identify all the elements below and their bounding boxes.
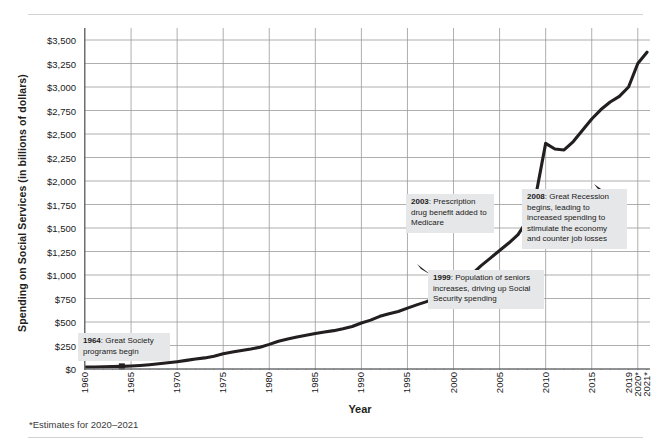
annotation-1999-year: 1999: <box>433 273 455 282</box>
y-axis-tick-label: $2,250 <box>16 152 76 163</box>
y-axis-tick-label: $2,000 <box>16 176 76 187</box>
y-axis-tick-label: $1,250 <box>16 246 76 257</box>
x-axis-tick-label: 1960 <box>80 372 90 393</box>
annotation-1964-year: 1964: <box>83 336 105 345</box>
y-axis-tick-label: $1,750 <box>16 199 76 210</box>
x-axis-tick-label: 2005 <box>495 372 505 393</box>
y-axis-tick-label: $1,000 <box>16 270 76 281</box>
y-axis-tick-label: $3,000 <box>16 82 76 93</box>
y-axis-tick-labels: $3,500$3,250$3,000$2,750$2,500$2,250$2,0… <box>14 28 76 370</box>
annotation-1999: 1999: Population of seniors increases, d… <box>428 270 544 309</box>
y-axis-tick-label: $500 <box>16 317 76 328</box>
y-axis-tick-label: $3,500 <box>16 35 76 46</box>
annotation-2003: 2003: Prescription drug benefit added to… <box>406 194 494 233</box>
x-axis-tick-label: 1975 <box>218 372 228 393</box>
x-axis-tick-label: 2021* <box>642 372 652 397</box>
y-axis-tick-label: $0 <box>16 364 76 375</box>
top-divider <box>28 14 643 15</box>
y-axis-tick-label: $1,500 <box>16 223 76 234</box>
y-axis-tick-label: $3,250 <box>16 58 76 69</box>
annotation-2008-year: 2008: <box>527 192 549 201</box>
annotation-2008: 2008: Great Recession begins, leading to… <box>522 189 627 249</box>
x-axis-tick-label: 1985 <box>310 372 320 393</box>
annotation-2003-year: 2003: <box>411 197 433 206</box>
chart-footnote: *Estimates for 2020–2021 <box>29 419 138 430</box>
x-axis-title: Year <box>90 403 630 415</box>
x-axis-tick-label: 1990 <box>356 372 366 393</box>
x-axis-tick-label: 1965 <box>126 372 136 393</box>
x-axis-tick-label: 1970 <box>172 372 182 393</box>
x-axis-tick-label: 2015 <box>587 372 597 393</box>
y-axis-tick-label: $2,500 <box>16 129 76 140</box>
bottom-divider <box>28 437 643 438</box>
y-axis-tick-label: $250 <box>16 340 76 351</box>
x-axis-tick-label: 2010 <box>541 372 551 393</box>
x-axis-tick-label: 1980 <box>264 372 274 393</box>
y-axis-tick-label: $750 <box>16 293 76 304</box>
x-axis-tick-label: 2000 <box>449 372 459 393</box>
chart-figure: Spending on Social Services (in billions… <box>0 0 671 447</box>
y-axis-tick-label: $2,750 <box>16 105 76 116</box>
annotation-1964: 1964: Great Society programs begin <box>78 333 170 361</box>
x-axis-tick-label: 1995 <box>402 372 412 393</box>
